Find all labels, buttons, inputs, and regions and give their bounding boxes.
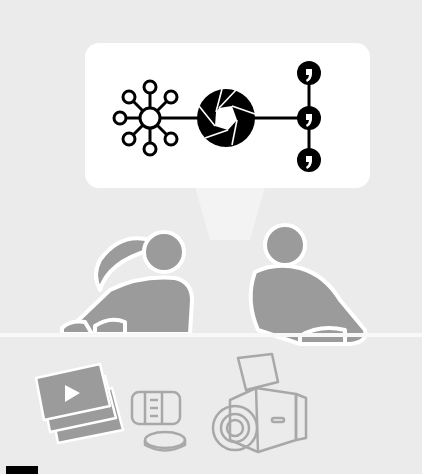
comment-node-icon — [297, 106, 321, 130]
comment-node-icon — [297, 61, 321, 85]
comment-node-icon — [297, 148, 321, 172]
camera-aperture-icon — [197, 89, 255, 147]
lens-icon — [132, 392, 180, 424]
medium-format-camera-icon — [213, 354, 306, 452]
man-figure — [251, 225, 366, 344]
illustration-svg — [0, 0, 422, 474]
photo-stack-icon — [36, 364, 123, 443]
table-edge — [0, 333, 422, 337]
woman-figure — [62, 232, 192, 334]
illustration-canvas — [0, 0, 422, 474]
corner-bar — [6, 466, 38, 474]
light-beam — [195, 187, 265, 240]
lens-cap-icon — [145, 432, 185, 451]
